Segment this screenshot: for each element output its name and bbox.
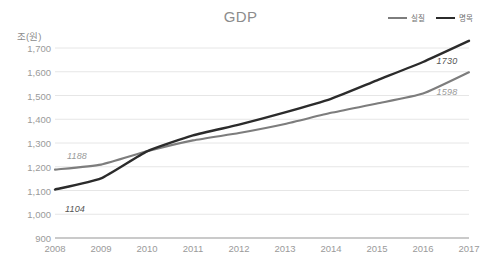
y-axis-tick: 1,300 xyxy=(5,138,51,149)
y-axis-tick: 1,200 xyxy=(5,161,51,172)
chart-legend: 실질 명목 xyxy=(388,12,473,23)
x-axis-tick: 2011 xyxy=(183,243,203,254)
x-axis-tick: 2014 xyxy=(320,243,341,254)
y-axis-tick: 900 xyxy=(5,233,51,244)
data-point-label: 1598 xyxy=(437,87,458,97)
x-axis-tick: 2009 xyxy=(90,243,111,254)
data-point-label: 1188 xyxy=(67,151,87,161)
x-axis-tick: 2017 xyxy=(458,243,479,254)
data-point-label: 1104 xyxy=(65,204,85,214)
y-axis-tick: 1,400 xyxy=(5,114,51,125)
x-axis-tick: 2016 xyxy=(412,243,433,254)
legend-label-nominal: 명목 xyxy=(459,12,473,23)
legend-swatch-nominal xyxy=(436,17,455,19)
y-axis-tick-labels: 9001,0001,1001,2001,3001,4001,5001,6001,… xyxy=(0,48,51,238)
x-axis-tick: 2010 xyxy=(136,243,157,254)
y-axis-tick: 1,100 xyxy=(5,185,51,196)
legend-item-nominal[interactable]: 명목 xyxy=(436,12,473,23)
y-axis-tick: 1,500 xyxy=(5,90,51,101)
y-axis-tick: 1,600 xyxy=(5,66,51,77)
series-real xyxy=(55,72,469,169)
x-axis-tick: 2015 xyxy=(366,243,387,254)
y-axis-unit-label: 조(원) xyxy=(17,29,41,43)
x-axis-tick-labels: 2008200920102011201220132014201520162017 xyxy=(55,243,469,259)
legend-label-real: 실질 xyxy=(411,12,425,23)
y-axis-tick: 1,700 xyxy=(5,43,51,54)
data-point-label: 1730 xyxy=(437,56,458,66)
y-axis-tick: 1,000 xyxy=(5,209,51,220)
x-axis-tick: 2012 xyxy=(228,243,249,254)
x-axis-tick: 2008 xyxy=(44,243,65,254)
x-axis-tick: 2013 xyxy=(274,243,295,254)
legend-swatch-real xyxy=(388,17,407,19)
legend-item-real[interactable]: 실질 xyxy=(388,12,425,23)
plot-svg xyxy=(55,48,469,238)
gdp-line-chart: GDP 실질 명목 조(원) 9001,0001,1001,2001,3001,… xyxy=(0,0,481,274)
plot-area: 1188110417301598 xyxy=(55,48,469,238)
